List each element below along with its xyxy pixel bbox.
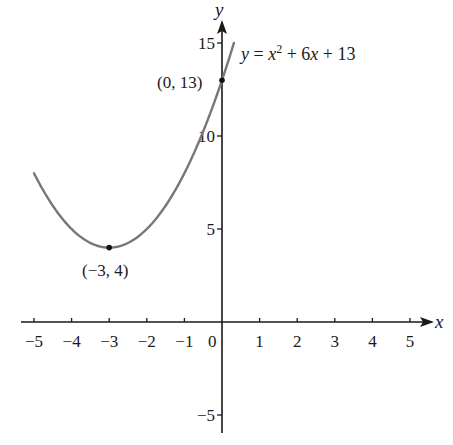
equation-label: y = x2 + 6x + 13: [239, 42, 355, 64]
y-tick-label: 15: [198, 34, 215, 53]
y-tick-label: −5: [197, 406, 215, 425]
eq-x-linear: x: [309, 44, 318, 64]
x-axis-label: x: [434, 311, 444, 332]
vertex-label: (−3, 4): [82, 261, 128, 280]
x-tick-label: −2: [138, 332, 156, 351]
x-ticks: −5−4−3−2−112345: [25, 318, 414, 351]
y-axis-label: y: [213, 0, 224, 20]
intercept-label: (0, 13): [157, 73, 202, 92]
x-tick-label: 5: [406, 332, 415, 351]
x-tick-label: 1: [255, 332, 264, 351]
x-tick-label: 4: [368, 332, 377, 351]
x-tick-label: −1: [175, 332, 193, 351]
vertex-point: [106, 245, 112, 251]
x-tick-label: −4: [63, 332, 82, 351]
y-tick-label: 5: [207, 220, 216, 239]
x-tick-label: −5: [25, 332, 43, 351]
eq-equals: =: [249, 44, 268, 64]
x-tick-label: 2: [293, 332, 302, 351]
eq-x: x: [267, 44, 276, 64]
x-tick-label: −3: [100, 332, 118, 351]
eq-plus-13: + 13: [318, 44, 355, 64]
x-tick-label: 3: [331, 332, 340, 351]
parabola-chart: x y −5−4−3−2−112345 15105−5 0 (−3, 4) (0…: [0, 0, 453, 445]
origin-label: 0: [208, 332, 217, 351]
eq-plus-6: + 6: [282, 44, 310, 64]
intercept-point: [219, 77, 225, 83]
eq-y: y: [239, 44, 249, 64]
